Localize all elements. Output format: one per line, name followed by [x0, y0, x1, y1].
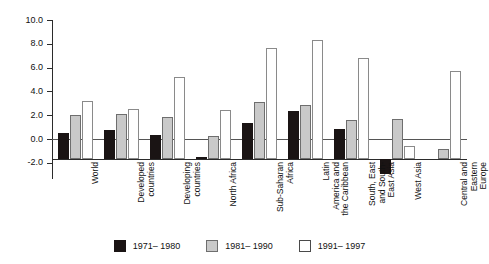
legend-label: 1971– 1980	[133, 242, 181, 251]
y-axis-tick-label: 2.0	[0, 111, 43, 120]
bar	[162, 117, 173, 159]
bar	[358, 58, 369, 159]
bar-group	[196, 20, 231, 159]
y-axis-tick-label: 8.0	[0, 39, 43, 48]
bar	[300, 105, 311, 159]
bar	[128, 109, 139, 159]
legend-item: 1981– 1990	[206, 240, 273, 252]
bar	[174, 77, 185, 159]
bar	[346, 120, 357, 159]
x-axis-label: Central and Eastern Europe	[460, 162, 489, 236]
x-axis-label: West Asia	[414, 162, 424, 236]
x-axis-label: World	[91, 162, 101, 236]
x-axis-category-labels: WorldDeveloped countriesDeveloping count…	[52, 162, 467, 236]
bar	[450, 71, 461, 159]
legend-swatch	[299, 240, 311, 252]
bar-group	[104, 20, 139, 159]
x-axis-label: Sub-Saharan Africa	[276, 162, 295, 236]
bar	[116, 114, 127, 159]
x-axis-label: Developed countries	[137, 162, 156, 236]
y-axis-tick-label: 0.0	[0, 135, 43, 144]
bar-group	[288, 20, 323, 159]
bar-group	[242, 20, 277, 159]
bar	[196, 157, 207, 159]
x-axis-label: North Africa	[229, 162, 239, 236]
y-axis-tick-label: 6.0	[0, 63, 43, 72]
legend-swatch	[206, 240, 218, 252]
bar	[392, 119, 403, 159]
bar-group	[426, 20, 461, 159]
bar	[438, 149, 449, 159]
chart-legend: 1971– 19801981– 19901991– 1997	[0, 236, 479, 256]
x-axis-label: Developing countries	[183, 162, 202, 236]
bar	[208, 136, 219, 159]
legend-label: 1981– 1990	[225, 242, 273, 251]
bar	[242, 123, 253, 159]
bar	[104, 130, 115, 159]
legend-item: 1971– 1980	[114, 240, 181, 252]
y-axis-tick-label: 4.0	[0, 87, 43, 96]
plot-area	[52, 20, 467, 159]
bar	[70, 115, 81, 159]
bar-group	[58, 20, 93, 159]
bar	[334, 129, 345, 159]
bar-group	[150, 20, 185, 159]
bar	[82, 101, 93, 159]
bar	[404, 146, 415, 159]
legend-label: 1991– 1997	[318, 242, 366, 251]
x-axis-label: Latin America and the Caribbean	[322, 162, 351, 236]
bar	[312, 40, 323, 159]
x-axis-label: South, East and South- East Asia	[368, 162, 397, 236]
x-axis-line	[52, 159, 467, 160]
bar-group	[334, 20, 369, 159]
y-axis-tick-label: 10.0	[0, 16, 43, 25]
bar	[266, 48, 277, 159]
bar	[58, 133, 69, 159]
y-axis-tick-label: -2.0	[0, 158, 43, 167]
bar	[254, 102, 265, 159]
bar	[220, 110, 231, 159]
bar	[288, 111, 299, 159]
legend-item: 1991– 1997	[299, 240, 366, 252]
bar	[150, 135, 161, 159]
bar-group	[380, 20, 415, 159]
legend-swatch	[114, 240, 126, 252]
